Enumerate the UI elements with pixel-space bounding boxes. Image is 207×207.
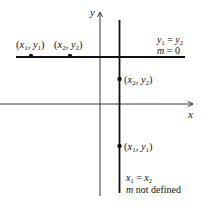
label-x1-y1-vertical: (x1, y1) xyxy=(124,141,153,154)
label-x1-y1-horizontal: (x1, y1) xyxy=(16,39,45,52)
label-x2-y2-horizontal: (x2, y2) xyxy=(54,39,83,52)
slope-diagram: y x (x1, y1) (x2, y2) y1 = y2 m = 0 (x2,… xyxy=(0,0,207,207)
x-axis-label: x xyxy=(187,108,193,120)
point-x1-y1-vertical xyxy=(117,144,121,148)
equation-x1-eq-x2: x1 = x2 xyxy=(125,172,152,184)
point-x2-y2-horizontal xyxy=(68,54,72,58)
slope-m-not-defined: m not defined xyxy=(126,184,181,195)
slope-m-eq-0: m = 0 xyxy=(157,45,180,56)
point-x1-y1-horizontal xyxy=(29,54,33,58)
point-x2-y2-vertical xyxy=(117,77,121,81)
y-axis-label: y xyxy=(89,6,95,18)
label-x2-y2-vertical: (x2, y2) xyxy=(124,74,153,87)
